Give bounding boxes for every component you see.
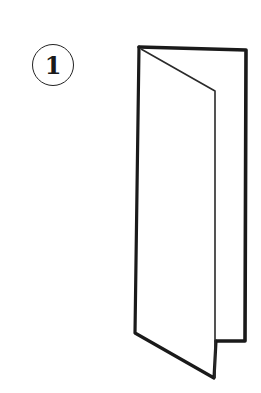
front-panel-outline (135, 47, 216, 378)
diagram-canvas: 1 (0, 0, 261, 393)
back-panel-outline (139, 47, 246, 341)
folded-brochure-illustration (0, 0, 261, 393)
inner-fold-edge (141, 49, 215, 378)
